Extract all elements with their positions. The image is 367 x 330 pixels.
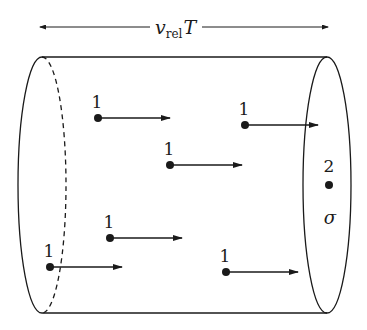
- length-label-sub: rel: [166, 27, 183, 41]
- particle-dot: [106, 234, 114, 242]
- beam-particle: 1: [92, 92, 170, 122]
- particle-dot: [222, 268, 230, 276]
- target-particle: 2 σ: [324, 156, 337, 228]
- beam-particles: 111111: [44, 92, 318, 276]
- particle-label: 1: [164, 139, 175, 159]
- cylinder-left-front-arc: [18, 57, 42, 313]
- beam-particle: 1: [104, 212, 182, 242]
- target-dot: [325, 181, 333, 189]
- particle-dot: [241, 121, 249, 129]
- particle-dot: [166, 161, 174, 169]
- beam-particle: 1: [164, 139, 242, 169]
- length-label: vrelT: [155, 16, 197, 41]
- particle-label: 1: [44, 241, 55, 261]
- beam-particle: 1: [239, 99, 318, 129]
- flux-cylinder-diagram: vrelT 111111 2 σ: [0, 0, 367, 330]
- target-label: 2: [324, 156, 335, 176]
- particle-label: 1: [104, 212, 115, 232]
- particle-label: 1: [220, 246, 231, 266]
- cylinder-left-back-arc-dashed: [42, 57, 66, 313]
- length-label-v: v: [155, 16, 166, 38]
- particle-label: 1: [92, 92, 103, 112]
- length-label-T: T: [183, 16, 197, 38]
- particle-dot: [94, 114, 102, 122]
- beam-particle: 1: [220, 246, 298, 276]
- length-dimension: vrelT: [40, 16, 328, 41]
- particle-dot: [46, 263, 54, 271]
- particle-label: 1: [239, 99, 250, 119]
- cross-section-label: σ: [324, 207, 337, 228]
- cylinder: [18, 57, 351, 313]
- beam-particle: 1: [44, 241, 122, 271]
